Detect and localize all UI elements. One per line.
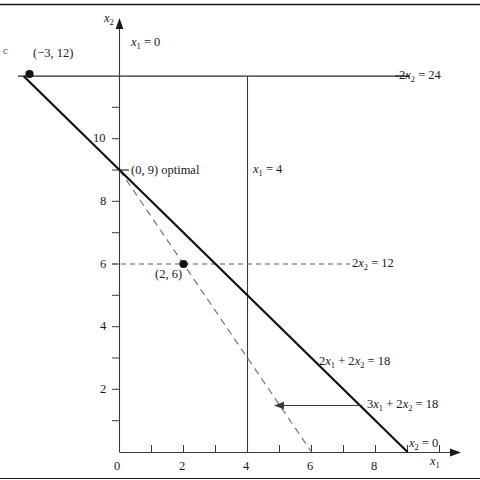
y-tick-label-6: 6 [100,258,106,271]
x-tick-label-4: 4 [243,460,249,473]
annotation-x1-equals-4: x1 = 4 [253,163,282,176]
annotation-objective-line: 2x1 + 2x2 = 18 [319,355,390,368]
annotation-x1-equals-0: x1 = 0 [131,36,160,49]
annotation-2x2-equals-24: 2x2 = 24 [399,69,441,82]
x-axis-ticks [152,445,440,452]
point-label-2-6: (2, 6) [155,268,182,281]
x-tick-label-6: 6 [307,460,313,473]
point-marker-neg3-12 [25,70,33,78]
y-tick-label-4: 4 [100,320,106,333]
annotation-2x2-equals-12: 2x2 = 12 [352,257,394,270]
y-tick-label-10: 10 [93,132,106,145]
x-tick-label-2: 2 [179,460,185,473]
point-label-neg3-12: (−3, 12) [33,47,73,60]
y-tick-label-8: 8 [100,195,106,208]
annotation-arrow-3x1-2x2-18 [274,402,362,409]
y-axis-label: x2 [104,12,114,25]
x-tick-label-8: 8 [371,460,377,473]
y-tick-label-2: 2 [100,383,106,396]
annotation-constraint-3x1-2x2: 3x1 + 2x2 = 18 [367,398,438,411]
y-axis-arrow [116,18,124,29]
annotation-x2-equals-0: x2 = 0 [409,437,438,450]
point-label-0-9-optimal: (0, 9) optimal [131,164,199,177]
x-axis-label: x1 [430,455,440,468]
margin-mark: c [3,44,8,56]
x-axis-arrow [450,449,461,457]
line-3x1-2x2-18 [120,170,312,452]
x-tick-label-0: 0 [114,460,120,473]
figure-canvas: c x2 x1 0 2 4 6 8 2 4 6 8 10 (−3, 12) (0… [0,0,480,480]
